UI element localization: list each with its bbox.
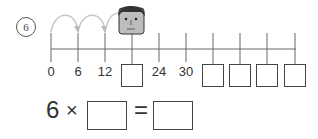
tick-label-24: 24 (147, 64, 171, 79)
tick-label-12: 12 (93, 64, 117, 79)
tick-label-0: 0 (39, 64, 63, 79)
equation-operand: 6 (46, 96, 59, 124)
answer-box-36[interactable] (202, 64, 224, 87)
multiplier-answer-box[interactable] (87, 101, 127, 130)
answer-box-48[interactable] (256, 64, 278, 87)
times-sign: × (66, 99, 78, 122)
answer-box-18[interactable] (121, 64, 143, 87)
tick-label-6: 6 (66, 64, 90, 79)
equals-sign: = (134, 96, 148, 124)
tick-label-30: 30 (174, 64, 198, 79)
answer-box-54[interactable] (284, 64, 306, 87)
product-answer-box[interactable] (153, 101, 193, 130)
answer-box-42[interactable] (229, 64, 251, 87)
jump-arcs (51, 13, 118, 32)
boy-face-icon (118, 6, 145, 34)
